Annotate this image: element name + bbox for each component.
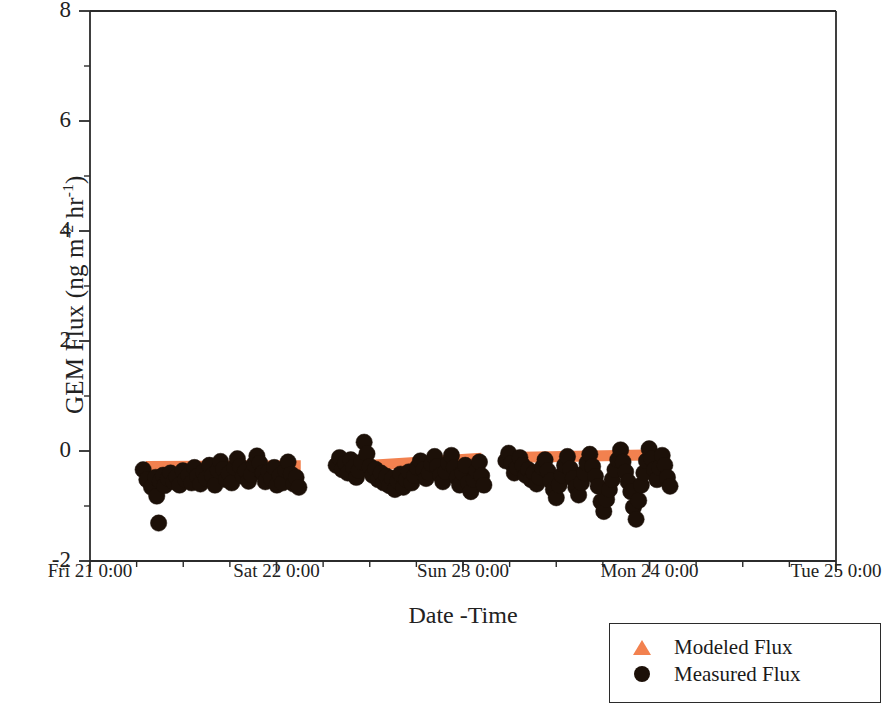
y-tick-label: 0 — [25, 438, 71, 461]
filled-circle-icon — [610, 666, 674, 682]
plot-canvas — [0, 0, 888, 703]
y-tick-label: 8 — [25, 0, 71, 21]
x-tick-label: Sat 22 0:00 — [202, 561, 352, 580]
measured-flux-point — [150, 515, 166, 531]
measured-flux-series — [135, 434, 678, 531]
measured-flux-point — [630, 492, 646, 508]
y-tick-label: 6 — [25, 108, 71, 131]
x-tick-label: Sun 23 0:00 — [388, 561, 538, 580]
legend-item-modeled-flux: Modeled Flux — [610, 634, 880, 660]
chart-legend: Modeled Flux Measured Flux — [609, 623, 881, 703]
measured-flux-point — [291, 479, 307, 495]
y-tick-label: 4 — [25, 218, 71, 241]
triangle-up-icon — [610, 640, 674, 655]
measured-flux-point — [628, 511, 644, 527]
y-tick-label: 2 — [25, 328, 71, 351]
legend-label-measured-flux: Measured Flux — [674, 662, 801, 687]
measured-flux-point — [662, 478, 678, 494]
x-tick-label: Tue 25 0:00 — [761, 561, 888, 580]
x-tick-label: Fri 21 0:00 — [15, 561, 165, 580]
legend-item-measured-flux: Measured Flux — [610, 661, 880, 687]
legend-label-modeled-flux: Modeled Flux — [674, 635, 792, 660]
gem-flux-figure: GEM Flux (ng m-2 hr-1) Date -Time 86420-… — [0, 0, 888, 703]
measured-flux-point — [476, 477, 492, 493]
x-tick-label: Mon 24 0:00 — [575, 561, 725, 580]
